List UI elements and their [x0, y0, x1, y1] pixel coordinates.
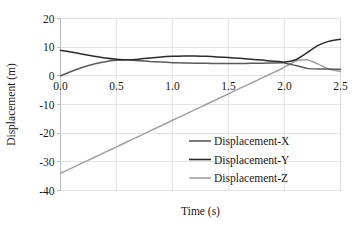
line-chart-figure: 0.00.51.01.52.02.5 20100-10-20-30-40 Tim…: [0, 0, 360, 227]
x-axis-tick-label: 0.0: [53, 80, 68, 92]
y-axis-tick-label: 0: [49, 70, 55, 82]
y-axis-tick-label: -20: [39, 127, 55, 139]
chart-canvas: 0.00.51.01.52.02.5 20100-10-20-30-40 Tim…: [0, 0, 360, 227]
legend-label-displacement-z: Displacement-Z: [214, 172, 288, 185]
x-axis-title: Time (s): [181, 205, 220, 218]
x-axis-tick-label: 0.5: [109, 80, 124, 92]
x-axis-tick-label: 1.0: [165, 80, 180, 92]
y-axis-tick-label: 10: [43, 41, 55, 53]
legend-label-displacement-y: Displacement-Y: [214, 154, 290, 167]
legend-label-displacement-x: Displacement-X: [214, 135, 290, 148]
x-axis-tick-label: 2.5: [333, 80, 348, 92]
y-axis-tick-label: -10: [39, 99, 55, 111]
y-axis-tick-label: -40: [39, 185, 55, 197]
y-axis-tick-label: 20: [43, 13, 55, 25]
y-axis-title: Displacement (m): [5, 63, 18, 146]
x-axis-tick-label: 2.0: [277, 80, 292, 92]
y-axis-tick-label: -30: [39, 156, 55, 168]
x-axis-tick-label: 1.5: [221, 80, 236, 92]
